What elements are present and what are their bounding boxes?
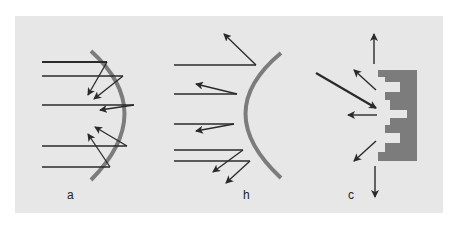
- stepped-surface: [378, 70, 417, 161]
- panel-a-concave: [42, 51, 134, 180]
- panel-c-stepped: [316, 34, 417, 197]
- convex-surface: [246, 53, 282, 178]
- concave-surface: [91, 51, 125, 180]
- panel-c-label: c: [348, 188, 354, 202]
- panel-b-convex: [174, 34, 281, 183]
- panel-b-label: h: [243, 188, 250, 202]
- panel-a-label: a: [67, 188, 74, 202]
